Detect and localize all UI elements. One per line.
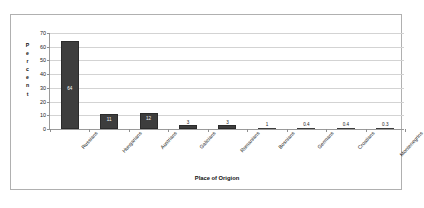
- bar[interactable]: 64: [61, 41, 79, 129]
- x-axis-category-label: Germans: [316, 130, 335, 150]
- bar-slot: 11: [89, 33, 128, 129]
- x-axis-title: Place of Origion: [11, 175, 423, 181]
- y-axis-tick-label: 10: [40, 112, 46, 118]
- bar-slot: 0.4: [287, 33, 326, 129]
- y-axis-tick-label: 50: [40, 57, 46, 63]
- x-axis-category-label: Montenegrins: [399, 130, 424, 157]
- x-axis-category-labels: RussiansHungariansAustriansGaliciansRoma…: [49, 130, 404, 176]
- bar-slot: 3: [168, 33, 207, 129]
- bar[interactable]: 3: [218, 125, 236, 129]
- x-axis-category-label: Hungarians: [121, 130, 143, 154]
- x-axis-category-label: Austrians: [159, 130, 178, 150]
- bar-slot: 64: [50, 33, 89, 129]
- x-axis-category-label: Bosnians: [277, 130, 296, 150]
- bar-value-label: 1: [266, 122, 269, 127]
- bar-slot: 0.4: [326, 33, 365, 129]
- x-axis-category-label: Russians: [80, 130, 99, 150]
- y-axis-tick-label: 0: [43, 126, 46, 132]
- y-axis-tick-label: 20: [40, 99, 46, 105]
- bar[interactable]: 3: [179, 125, 197, 129]
- x-axis-category-label: Galicians: [198, 130, 217, 150]
- x-axis-tickmark: [405, 129, 406, 132]
- bar-slot: 3: [208, 33, 247, 129]
- bar[interactable]: 11: [100, 114, 118, 129]
- bar-slot: 12: [129, 33, 168, 129]
- bar-value-label: 11: [107, 117, 112, 122]
- x-axis-category-label: Croatians: [356, 130, 375, 151]
- chart-container: P e r c e n t 010203040506070 6411123310…: [10, 14, 402, 190]
- y-axis-tick-label: 40: [40, 71, 46, 77]
- y-axis-tick-labels: 010203040506070: [31, 33, 47, 129]
- y-axis-tick-label: 60: [40, 44, 46, 50]
- bar[interactable]: 0.3: [376, 128, 394, 129]
- y-axis-tick-label: 30: [40, 85, 46, 91]
- bar-slot: 1: [247, 33, 286, 129]
- bar-value-label: 0.4: [303, 122, 309, 127]
- bar-value-label: 12: [146, 116, 151, 121]
- y-axis-tick-label: 70: [40, 30, 46, 36]
- bar-value-label: 0.3: [382, 122, 388, 127]
- bar-value-label: 3: [226, 120, 229, 125]
- bar-value-label: 64: [67, 86, 72, 91]
- x-axis-category-label: Romanians: [239, 130, 261, 154]
- bar-series: 6411123310.40.40.3: [50, 33, 404, 129]
- bar-slot: 0.3: [366, 33, 405, 129]
- bar[interactable]: 0.4: [337, 128, 355, 129]
- bar[interactable]: 12: [140, 113, 158, 129]
- bar-value-label: 0.4: [343, 122, 349, 127]
- bar[interactable]: 1: [258, 128, 276, 129]
- plot-area: 6411123310.40.40.3: [49, 33, 404, 129]
- bar-value-label: 3: [187, 120, 190, 125]
- bar[interactable]: 0.4: [297, 128, 315, 129]
